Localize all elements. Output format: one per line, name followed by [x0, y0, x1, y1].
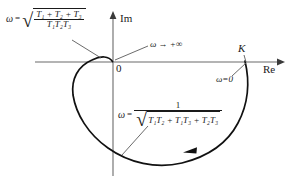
annotation-omega-to-infinity: ω → +∞ [150, 40, 182, 49]
equals-sign-1: = [15, 14, 20, 23]
radical-sign-glyph-1: √ [22, 8, 33, 29]
label-gain-point-k: K [238, 43, 245, 54]
fraction-denominator-1: T₁T₂T₃ [34, 20, 84, 29]
omega-symbol-2: ω [118, 110, 125, 120]
square-root-icon-1: √ T₁ + T₂ + T₃ T₁T₂T₃ [22, 8, 86, 29]
label-origin: 0 [116, 63, 122, 74]
leader-line-omega-zero [232, 63, 246, 76]
leader-line-omega-cross [122, 126, 148, 155]
real-axis [35, 58, 285, 65]
fraction-numerator-2: 1 [134, 101, 222, 111]
leader-line-omega-max [72, 40, 101, 58]
label-imaginary-axis: Im [120, 13, 132, 24]
annotation-omega-resonant-formula: ω = √ T₁ + T₂ + T₃ T₁T₂T₃ [6, 8, 86, 29]
real-axis-arrowhead [277, 58, 285, 65]
label-real-axis: Re [263, 64, 275, 75]
annotation-omega-zero: ω=0 [216, 75, 233, 84]
annotation-omega-crossover-formula: ω = 1 √ T₁T₂ + T₁T₃ + T₂T₃ [118, 101, 222, 128]
fraction-2: 1 √ T₁T₂ + T₁T₃ + T₂T₃ [134, 101, 222, 128]
imaginary-axis-arrowhead [110, 11, 117, 19]
omega-symbol-1: ω [6, 14, 13, 24]
equals-sign-2: = [127, 110, 132, 119]
fraction-denominator-2: T₁T₂ + T₁T₃ + T₂T₃ [147, 111, 220, 128]
leader-line-omega-infinity [115, 46, 148, 60]
radical-sign-glyph-2: √ [136, 111, 147, 128]
curve-direction-arrowhead [183, 147, 197, 153]
fraction-1: T₁ + T₂ + T₃ T₁T₂T₃ [34, 10, 84, 29]
square-root-icon-2: √ T₁T₂ + T₁T₃ + T₂T₃ [136, 111, 220, 128]
nyquist-diagram-figure: ω = √ T₁ + T₂ + T₃ T₁T₂T₃ ω = 1 [0, 0, 290, 182]
